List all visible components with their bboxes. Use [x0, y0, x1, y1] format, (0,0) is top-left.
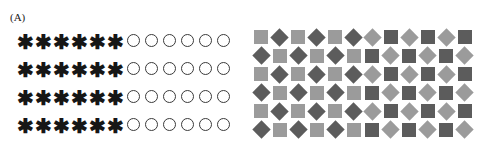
panel-b-cell	[308, 47, 327, 66]
panel-b-cell	[363, 28, 382, 47]
dark-square-shape	[384, 30, 398, 44]
panel-b-cell	[289, 102, 308, 121]
light-diamond-shape	[400, 28, 418, 46]
circle-outline-shape	[181, 118, 194, 131]
dark-square-shape	[402, 49, 416, 63]
asterisk-star-icon: ✱	[34, 82, 52, 110]
circle-outline-icon	[142, 82, 160, 110]
panel-b-cell	[456, 121, 475, 140]
dark-square-shape	[402, 123, 416, 137]
panel-b-cell	[363, 65, 382, 84]
panel-b-row	[252, 121, 474, 140]
panel-b-cell	[400, 102, 419, 121]
dark-diamond-shape	[271, 102, 289, 120]
circle-outline-shape	[181, 90, 194, 103]
light-square-shape	[347, 86, 361, 100]
asterisk-star-glyph: ✱	[53, 116, 70, 136]
dark-diamond-shape	[252, 47, 270, 65]
light-square-shape	[310, 49, 324, 63]
asterisk-star-icon: ✱	[88, 54, 106, 82]
dark-square-shape	[365, 86, 379, 100]
asterisk-star-icon: ✱	[34, 110, 52, 138]
dark-square-shape	[384, 104, 398, 118]
asterisk-star-glyph: ✱	[53, 88, 70, 108]
light-square-shape	[254, 104, 268, 118]
dark-square-shape	[365, 123, 379, 137]
circle-outline-shape	[127, 34, 140, 47]
panel-b-cell	[271, 102, 290, 121]
asterisk-star-icon: ✱	[70, 54, 88, 82]
panel-b-cell	[252, 65, 271, 84]
circle-outline-icon	[160, 54, 178, 82]
asterisk-star-icon: ✱	[106, 26, 124, 54]
dark-diamond-shape	[252, 84, 270, 102]
light-square-shape	[328, 67, 342, 81]
circle-outline-icon	[214, 54, 232, 82]
asterisk-star-glyph: ✱	[35, 116, 52, 136]
panel-b-cell	[419, 47, 438, 66]
asterisk-star-icon: ✱	[16, 110, 34, 138]
figure-container: (A) ✱✱✱✱✱✱✱✱✱✱✱✱✱✱✱✱✱✱✱✱✱✱✱✱ (B)	[0, 0, 483, 152]
light-diamond-shape	[363, 28, 381, 46]
dark-square-shape	[421, 104, 435, 118]
light-diamond-shape	[382, 47, 400, 65]
circle-outline-shape	[217, 62, 230, 75]
panel-b-cell	[400, 84, 419, 103]
circle-outline-icon	[196, 54, 214, 82]
asterisk-star-glyph: ✱	[17, 116, 34, 136]
panel-b-cell	[252, 121, 271, 140]
circle-outline-icon	[178, 110, 196, 138]
circle-outline-shape	[163, 62, 176, 75]
asterisk-star-icon: ✱	[106, 82, 124, 110]
light-square-shape	[291, 30, 305, 44]
panel-b-row	[252, 65, 474, 84]
circle-outline-shape	[199, 62, 212, 75]
light-diamond-shape	[456, 84, 474, 102]
panel-b-cell	[345, 28, 364, 47]
circle-outline-shape	[217, 34, 230, 47]
panel-a-label: (A)	[10, 12, 25, 23]
dark-square-shape	[421, 30, 435, 44]
light-square-shape	[310, 86, 324, 100]
light-diamond-shape	[382, 84, 400, 102]
panel-b-cell	[345, 121, 364, 140]
light-diamond-shape	[382, 121, 400, 139]
asterisk-star-glyph: ✱	[17, 32, 34, 52]
panel-b-cell	[326, 47, 345, 66]
dark-square-shape	[402, 86, 416, 100]
dark-diamond-shape	[308, 102, 326, 120]
panel-b-cell	[437, 65, 456, 84]
dark-diamond-shape	[345, 102, 363, 120]
panel-b-cell	[345, 65, 364, 84]
asterisk-star-icon: ✱	[106, 54, 124, 82]
panel-b-cell	[363, 121, 382, 140]
asterisk-star-glyph: ✱	[107, 116, 124, 136]
circle-outline-icon	[214, 82, 232, 110]
dark-diamond-shape	[308, 65, 326, 83]
circle-outline-shape	[127, 118, 140, 131]
panel-b-cell	[308, 121, 327, 140]
light-diamond-shape	[363, 102, 381, 120]
dark-diamond-shape	[326, 121, 344, 139]
circle-outline-shape	[199, 90, 212, 103]
circle-outline-shape	[163, 34, 176, 47]
asterisk-star-glyph: ✱	[107, 88, 124, 108]
panel-b-cell	[437, 47, 456, 66]
circle-outline-shape	[199, 118, 212, 131]
panel-b-cell	[252, 102, 271, 121]
panel-a: (A) ✱✱✱✱✱✱✱✱✱✱✱✱✱✱✱✱✱✱✱✱✱✱✱✱	[0, 0, 240, 152]
dark-square-shape	[458, 30, 472, 44]
light-diamond-shape	[419, 47, 437, 65]
circle-outline-shape	[181, 34, 194, 47]
asterisk-star-icon: ✱	[34, 54, 52, 82]
panel-b-row	[252, 47, 474, 66]
circle-outline-shape	[145, 62, 158, 75]
asterisk-star-icon: ✱	[16, 26, 34, 54]
asterisk-star-icon: ✱	[70, 82, 88, 110]
panel-b-cell	[419, 28, 438, 47]
asterisk-star-icon: ✱	[52, 110, 70, 138]
circle-outline-icon	[196, 26, 214, 54]
panel-b-cell	[289, 47, 308, 66]
panel-b-cell	[419, 84, 438, 103]
asterisk-star-icon: ✱	[52, 54, 70, 82]
